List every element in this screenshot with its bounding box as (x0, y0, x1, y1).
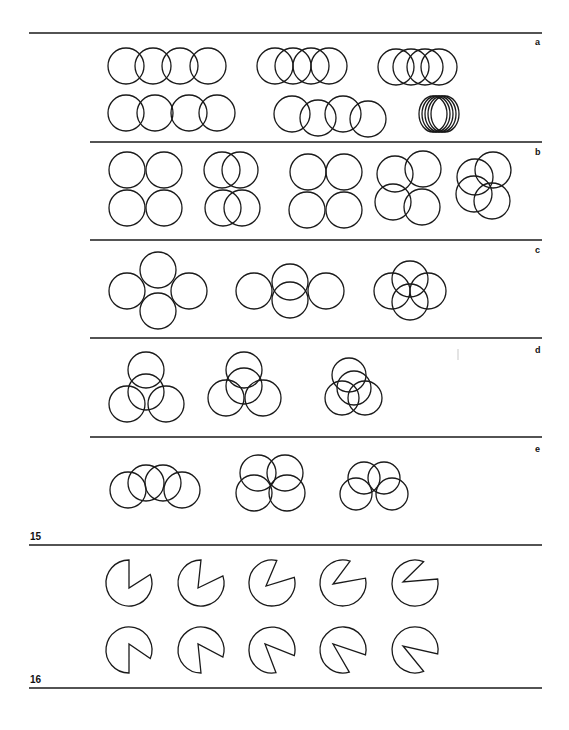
circle-group-cross-tight (374, 261, 446, 320)
circle-group-trefoil-tight (325, 358, 382, 415)
circle-outline (140, 293, 176, 329)
circle-outline (456, 176, 492, 212)
circle-outline (108, 48, 144, 84)
circle-group-row2-spaced (108, 95, 235, 131)
circle-outline (325, 96, 361, 132)
circle-outline (171, 95, 207, 131)
circle-outline (421, 49, 457, 85)
circle-group-cross-spaced (109, 252, 207, 329)
pacman-shape (249, 560, 295, 606)
circle-group-trefoil-mid (208, 352, 281, 416)
circle-outline (350, 101, 386, 137)
circle-outline (300, 100, 336, 136)
circle-group-row2-staggered (274, 96, 386, 137)
circle-outline (146, 190, 182, 226)
circle-outline (337, 371, 371, 405)
figure-number-16: 16 (30, 674, 42, 685)
panel-label-d: d (535, 345, 541, 355)
circle-outline (348, 381, 382, 415)
circle-group-row1-spaced (108, 48, 226, 84)
panel-label-c: c (535, 245, 540, 255)
circle-group-flower-four (236, 455, 305, 511)
circle-group-grid-central (456, 152, 511, 219)
circle-outline (326, 192, 362, 228)
circle-outline (171, 273, 207, 309)
circle-group-grid-touching (109, 152, 182, 226)
circle-outline (108, 95, 144, 131)
circle-outline (326, 154, 362, 190)
panel-label-b: b (535, 147, 541, 157)
circle-outline (128, 465, 164, 501)
circle-outline (428, 96, 456, 132)
panel-a (108, 48, 459, 137)
pacman-shape (106, 560, 152, 606)
circle-group-flower-tight (340, 462, 408, 510)
circle-group-chain-overlap (110, 465, 200, 508)
circle-outline (419, 96, 447, 132)
circle-group-row1-tight (378, 49, 457, 85)
circle-group-trefoil-loose (109, 352, 184, 422)
circle-outline (269, 475, 305, 511)
circle-outline (267, 455, 303, 491)
circle-outline (128, 352, 164, 388)
circle-outline (146, 152, 182, 188)
circle-outline (405, 151, 441, 187)
circle-outline (148, 386, 184, 422)
circle-outline (109, 273, 145, 309)
panel-label-a: a (535, 37, 541, 47)
circle-group-grid-offset (375, 151, 441, 225)
circle-outline (290, 154, 326, 190)
circle-outline (407, 49, 443, 85)
figure-canvas: abcde 15 16 (0, 0, 569, 730)
circle-outline (236, 475, 272, 511)
pacman-shape (249, 627, 295, 673)
pacman-shape (178, 627, 224, 673)
circle-outline (325, 381, 359, 415)
circle-outline (236, 273, 272, 309)
pacman-shape (320, 560, 366, 606)
panel-d (109, 352, 382, 422)
circle-outline (199, 95, 235, 131)
circle-outline (109, 386, 145, 422)
circle-outline (135, 48, 171, 84)
pacman-shape (178, 560, 224, 606)
circle-outline (308, 273, 344, 309)
pacman-shape (392, 560, 438, 606)
circle-outline (377, 156, 413, 192)
panel-c (109, 252, 446, 329)
figure-number-15: 15 (30, 531, 42, 542)
pacman-shape (320, 627, 366, 673)
circle-outline (393, 49, 429, 85)
circle-outline (425, 96, 453, 132)
circle-group-grid-shifted (204, 152, 260, 226)
circle-outline (145, 465, 181, 501)
panel-labels: abcde (535, 37, 541, 454)
circle-outline (224, 190, 260, 226)
circle-outline (205, 190, 241, 226)
pacman-row-mouth-top-right (106, 560, 438, 606)
circle-group-cross-middle (236, 264, 344, 318)
circle-outline (431, 96, 459, 132)
circle-group-row1-overlap (257, 48, 347, 84)
circle-outline (457, 159, 493, 195)
circle-outline (404, 189, 440, 225)
circle-outline (140, 252, 176, 288)
circle-outline (245, 380, 281, 416)
circle-outline (109, 190, 145, 226)
circle-outline (109, 152, 145, 188)
circle-outline (137, 95, 173, 131)
figure-16-pacman-shapes (106, 560, 438, 673)
panel-label-e: e (535, 444, 540, 454)
pacman-shape (392, 627, 438, 673)
circle-outline (110, 472, 146, 508)
circle-group-row2-stacked (419, 96, 459, 132)
circle-outline (378, 49, 414, 85)
circle-group-grid-diamond (289, 154, 362, 228)
circle-outline (128, 374, 164, 410)
circle-outline (289, 192, 325, 228)
circle-outline (422, 96, 450, 132)
circle-outline (274, 96, 310, 132)
pacman-row-mouth-bottom-right (106, 627, 438, 673)
circle-outline (164, 472, 200, 508)
panel-b (109, 151, 511, 228)
